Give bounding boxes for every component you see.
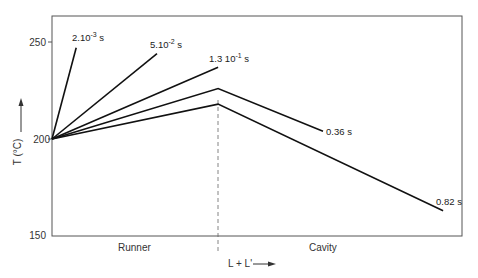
series-label-0.36: 0.36 s — [326, 126, 352, 137]
series-label-5e-2: 5.10-2 s — [150, 38, 182, 50]
series-line-1 — [52, 48, 76, 139]
series-label-1.3e-1: 1.3 10-1 s — [209, 52, 249, 64]
y-axis: 250 200 150 — [29, 37, 52, 241]
series-line-3 — [52, 67, 218, 139]
arrow-right-icon — [268, 262, 276, 267]
series-line-2 — [52, 54, 157, 139]
region-label-runner: Runner — [118, 242, 151, 253]
series-lines — [52, 48, 443, 211]
y-tick-label-250: 250 — [29, 37, 46, 48]
y-axis-label: T (°C) — [12, 139, 23, 166]
y-tick-label-150: 150 — [29, 230, 46, 241]
series-label-2e-3: 2.10-3 s — [72, 31, 104, 43]
series-labels: 2.10-3 s 5.10-2 s 1.3 10-1 s 0.36 s 0.82… — [72, 31, 462, 207]
region-label-cavity: Cavity — [309, 242, 337, 253]
series-line-5 — [52, 104, 443, 211]
series-label-0.82: 0.82 s — [436, 196, 462, 207]
y-axis-label-group: T (°C) — [12, 98, 24, 165]
series-line-4 — [52, 89, 323, 139]
y-tick-label-200: 200 — [33, 134, 50, 145]
x-axis-label: L + L' — [228, 258, 252, 269]
x-axis-label-group: L + L' — [228, 258, 276, 269]
arrow-up-icon — [19, 98, 24, 106]
chart: 250 200 150 T (°C) 2.10-3 s 5.10-2 s 1.3… — [0, 0, 478, 278]
